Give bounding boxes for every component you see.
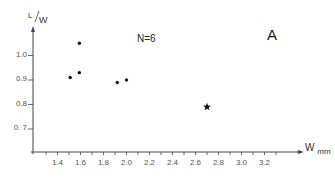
x-tick-label: 1.6 — [75, 158, 87, 167]
x-axis-label: W mm — [305, 142, 331, 156]
data-point — [68, 76, 71, 79]
panel-label: A — [267, 26, 277, 43]
x-axis-label-main: W — [305, 142, 315, 153]
x-axis-ticks: 1.41.61.82.02.22.42.62.83.03.2 — [46, 152, 276, 167]
data-point — [116, 81, 119, 84]
y-axis-arrow-icon — [31, 26, 35, 32]
data-points — [68, 42, 211, 111]
x-tick-label: 2.4 — [167, 158, 179, 167]
y-axis-label-top: L — [28, 11, 33, 20]
y-tick-label: 0.8 — [16, 99, 28, 108]
x-tick-label: 3.0 — [236, 158, 248, 167]
y-axis-label: L — [28, 11, 33, 20]
sample-count-annotation: N=6 — [137, 33, 156, 44]
star-marker-icon — [203, 103, 211, 111]
axes — [31, 26, 304, 154]
data-point — [78, 71, 81, 74]
x-axis-arrow-icon — [298, 150, 304, 154]
x-axis-label-sub: mm — [317, 147, 331, 156]
x-tick-label: 2.2 — [144, 158, 156, 167]
data-point — [78, 42, 81, 45]
x-tick-label: 2.8 — [213, 158, 225, 167]
x-tick-label: 1.8 — [98, 158, 110, 167]
scatter-chart: 1.41.61.82.02.22.42.62.83.03.2 0. 70.80.… — [0, 0, 335, 183]
x-tick-label: 3.2 — [259, 158, 271, 167]
x-tick-label: 1.4 — [52, 158, 64, 167]
y-tick-label: 0.9 — [16, 74, 28, 83]
y-tick-label: 1.0 — [16, 50, 28, 59]
y-axis-ticks: 0. 70.80.91.0 — [14, 50, 33, 133]
x-tick-label: 2.6 — [190, 158, 202, 167]
y-tick-label: 0. 7 — [14, 123, 28, 132]
x-tick-label: 2.0 — [121, 158, 133, 167]
y-axis-label-bottom: W — [39, 15, 48, 25]
data-point — [125, 78, 128, 81]
